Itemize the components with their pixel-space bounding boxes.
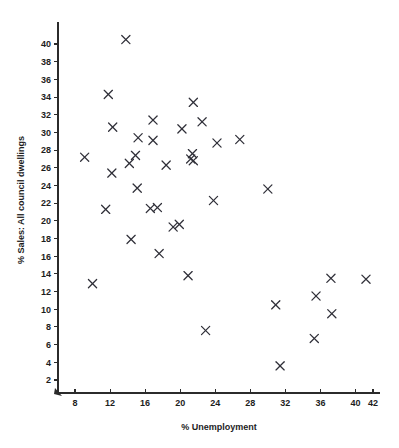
data-point: [276, 362, 284, 370]
data-point: [149, 116, 157, 124]
data-point: [178, 125, 186, 133]
data-point: [209, 196, 217, 204]
data-point: [125, 159, 133, 167]
data-point: [328, 310, 336, 318]
y-axis-tick-label: 6: [46, 340, 51, 350]
y-axis-tick-label: 22: [41, 198, 51, 208]
y-axis-tick-label: 12: [41, 287, 51, 297]
data-point: [131, 151, 139, 159]
scatter-chart-figure: 2468101214161820222426283032343638408121…: [0, 0, 399, 448]
data-point: [149, 136, 157, 144]
data-point: [327, 274, 335, 282]
y-axis-tick-label: 8: [46, 322, 51, 332]
data-point: [272, 301, 280, 309]
data-markers-group: [81, 35, 371, 369]
data-point: [108, 169, 116, 177]
y-axis-tick-label: 38: [41, 57, 51, 67]
data-point: [146, 204, 154, 212]
x-axis-tick-label: 42: [368, 398, 378, 408]
x-axis-tick-label: 16: [140, 398, 150, 408]
y-axis-tick-label: 20: [41, 216, 51, 226]
y-axis-tick-label: 26: [41, 163, 51, 173]
x-axis-tick-label: 20: [175, 398, 185, 408]
axes-group: [54, 22, 380, 396]
data-point: [109, 123, 117, 131]
data-point: [81, 153, 89, 161]
y-axis-tick-label: 4: [46, 358, 51, 368]
data-point: [127, 235, 135, 243]
data-point: [88, 280, 96, 288]
data-point: [362, 275, 370, 283]
y-axis-tick-label: 10: [41, 305, 51, 315]
axis-tick-labels-group: 2468101214161820222426283032343638408121…: [41, 39, 378, 408]
data-point: [189, 98, 197, 106]
y-axis-tick-label: 2: [46, 375, 51, 385]
y-axis-tick-label: 30: [41, 128, 51, 138]
axis-ticks-group: [54, 44, 373, 393]
data-point: [102, 205, 110, 213]
y-axis-tick-label: 18: [41, 234, 51, 244]
x-axis-tick-label: 32: [280, 398, 290, 408]
data-point: [184, 272, 192, 280]
x-axis-title: % Unemployment: [181, 422, 257, 432]
x-axis-tick-label: 40: [350, 398, 360, 408]
data-point: [264, 185, 272, 193]
data-point: [236, 135, 244, 143]
y-axis-tick-label: 16: [41, 252, 51, 262]
x-axis-tick-label: 36: [315, 398, 325, 408]
data-point: [134, 134, 142, 142]
data-point: [133, 184, 141, 192]
data-point: [122, 35, 130, 43]
data-point: [312, 292, 320, 300]
y-axis-tick-label: 32: [41, 110, 51, 120]
data-point: [189, 157, 197, 165]
data-point: [310, 334, 318, 342]
data-point: [198, 118, 206, 126]
data-point: [104, 90, 112, 98]
y-axis-tick-label: 14: [41, 269, 51, 279]
y-axis-tick-label: 36: [41, 75, 51, 85]
x-axis-tick-label: 28: [245, 398, 255, 408]
x-axis-tick-label: 12: [105, 398, 115, 408]
data-point: [201, 326, 209, 334]
y-axis-title: % Sales: All council dwellings: [16, 136, 26, 264]
data-point: [213, 139, 221, 147]
x-axis-tick-label: 24: [210, 398, 220, 408]
y-axis-tick-label: 28: [41, 145, 51, 155]
y-axis-tick-label: 24: [41, 181, 51, 191]
data-point: [162, 161, 170, 169]
y-axis-tick-label: 40: [41, 39, 51, 49]
data-point: [155, 249, 163, 257]
scatter-plot-canvas: 2468101214161820222426283032343638408121…: [0, 0, 399, 448]
x-axis-tick-label: 8: [72, 398, 77, 408]
y-axis-tick-label: 34: [41, 92, 51, 102]
